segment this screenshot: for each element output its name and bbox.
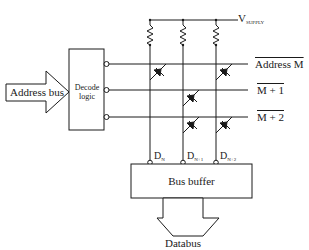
bus-buffer-label: Bus buffer (131, 176, 252, 187)
resistor-icon (180, 25, 186, 45)
column-label-dn: DN (154, 151, 165, 162)
supply-label: VSUPPLY (238, 13, 264, 25)
diode-icon (216, 117, 232, 133)
diagram-canvas (0, 0, 309, 250)
decoder-label-line2: logic (72, 93, 102, 101)
resistor-icon (213, 25, 219, 45)
column-label-dn2: DN+2 (220, 151, 236, 162)
address-bus-label: Address bus (10, 87, 64, 98)
row-label-address-m: Address M (255, 59, 304, 70)
diode-icon (183, 117, 199, 133)
diode-icon (150, 64, 166, 80)
resistor-icon (147, 25, 153, 45)
column-label-dn1: DN+1 (187, 151, 203, 162)
databus-label: Databus (150, 238, 216, 249)
row-label-m1: M + 1 (257, 85, 284, 96)
row-label-m2: M + 2 (257, 112, 284, 123)
diode-icon (183, 90, 199, 106)
databus-arrow (157, 198, 219, 236)
decoder-label-line1: Decode (72, 84, 102, 92)
diode-icon (216, 64, 232, 80)
